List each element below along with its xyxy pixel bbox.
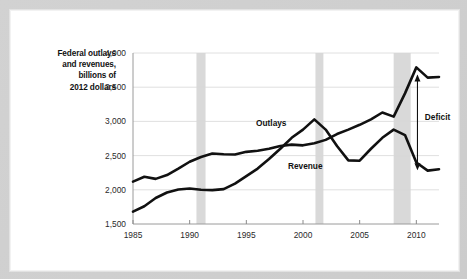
deficit-arrowhead-down (414, 163, 420, 170)
y-tick-label-2500: 2,500 (105, 151, 126, 161)
shaded-band-recession-2008-2009 (394, 53, 411, 224)
shaded-band-recession-2001 (315, 53, 323, 224)
x-tick-labels-group: 198519901995200020052010 (124, 230, 426, 240)
axes-group (133, 53, 439, 224)
screenshot-root: Federal outlays and revenues, billions o… (0, 0, 467, 279)
series-label-outlays: Outlays (256, 118, 287, 128)
y-tick-label-4000: 4,000 (105, 48, 126, 58)
x-tick-label-1990: 1990 (180, 230, 199, 240)
y-tick-label-1500: 1,500 (105, 219, 126, 229)
deficit-arrowhead-up (414, 75, 420, 82)
shaded-band-recession-1990-1991 (196, 53, 205, 224)
deficit-annotation-label: Deficit (425, 112, 451, 122)
x-tick-label-1985: 1985 (124, 230, 143, 240)
series-label-revenue: Revenue (288, 161, 323, 171)
recession-bands-group (196, 53, 410, 224)
x-tick-label-2010: 2010 (407, 230, 426, 240)
y-tick-labels-group: 1,5002,0002,5003,0003,5004,000 (105, 48, 126, 229)
y-tick-label-3000: 3,000 (105, 116, 126, 126)
y-tick-label-3500: 3,500 (105, 82, 126, 92)
line-chart: 1,5002,0002,5003,0003,5004,000 198519901… (10, 10, 459, 271)
x-tick-label-2000: 2000 (294, 230, 313, 240)
annotations-group: DeficitOutlaysRevenue (256, 75, 450, 172)
x-tick-label-1995: 1995 (237, 230, 256, 240)
x-tick-label-2005: 2005 (350, 230, 369, 240)
y-tick-label-2000: 2,000 (105, 185, 126, 195)
series-line-revenue (133, 119, 439, 211)
figure-card: Federal outlays and revenues, billions o… (9, 9, 460, 272)
